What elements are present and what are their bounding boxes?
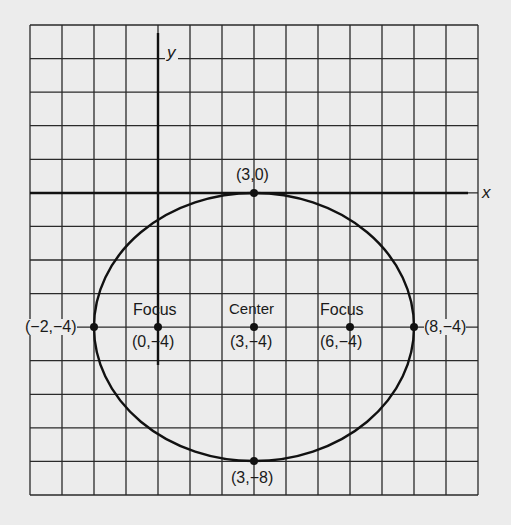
point-left-vertex bbox=[90, 323, 98, 331]
label-left-vertex: (−2,−4) bbox=[25, 319, 77, 335]
point-bottom-vertex bbox=[250, 457, 258, 465]
title-center: Center bbox=[229, 301, 274, 316]
label-bottom-vertex: (3,−8) bbox=[231, 470, 273, 486]
point-right-focus bbox=[346, 323, 354, 331]
label-center: (3,−4) bbox=[230, 334, 272, 350]
point-right-vertex bbox=[410, 323, 418, 331]
point-center bbox=[250, 323, 258, 331]
coordinate-grid bbox=[0, 0, 511, 525]
y-axis-label: y bbox=[165, 44, 178, 61]
title-left-focus: Focus bbox=[133, 302, 177, 318]
label-right-focus: (6,−4) bbox=[320, 334, 362, 350]
point-left-focus bbox=[154, 323, 162, 331]
label-left-focus: (0,−4) bbox=[132, 334, 174, 350]
label-right-vertex: (8,−4) bbox=[424, 319, 466, 335]
label-top-vertex: (3,0) bbox=[236, 167, 269, 183]
title-right-focus: Focus bbox=[320, 302, 364, 318]
point-top-vertex bbox=[250, 189, 258, 197]
x-axis-label: x bbox=[482, 184, 491, 201]
